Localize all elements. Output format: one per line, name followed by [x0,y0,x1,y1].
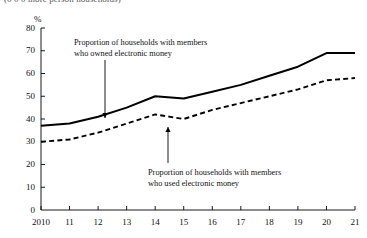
y-axis-tick-label: 70 [13,46,35,55]
annotation-arrow-owned [102,60,107,118]
annotation-owned-line2: who owned electronic money [74,49,207,60]
y-axis-tick-label: 50 [13,92,35,101]
annotation-used-line2: who used electronic money [148,179,281,190]
annotation-used-series: Proportion of households with members wh… [148,168,281,189]
series-line-used [41,78,355,142]
y-axis-tick-label: 0 [13,206,35,215]
y-axis-tick-label: 30 [13,137,35,146]
annotation-owned-series: Proportion of households with members wh… [74,38,207,59]
annotation-used-line1: Proportion of households with members [148,168,281,179]
annotation-arrow-used [165,127,170,163]
y-axis-tick-label: 20 [13,160,35,169]
annotation-owned-line1: Proportion of households with members [74,38,207,49]
y-axis-tick-label: 80 [13,24,35,33]
series-line-owned [41,53,355,126]
x-axis-tick-label: 21 [338,218,367,227]
y-axis-tick-label: 40 [13,115,35,124]
y-axis-tick-label: 10 [13,183,35,192]
y-axis-tick-label: 60 [13,69,35,78]
chart-plot-area [0,0,367,238]
figure-root: (0 0 0 more person households) % Proport… [0,0,367,238]
